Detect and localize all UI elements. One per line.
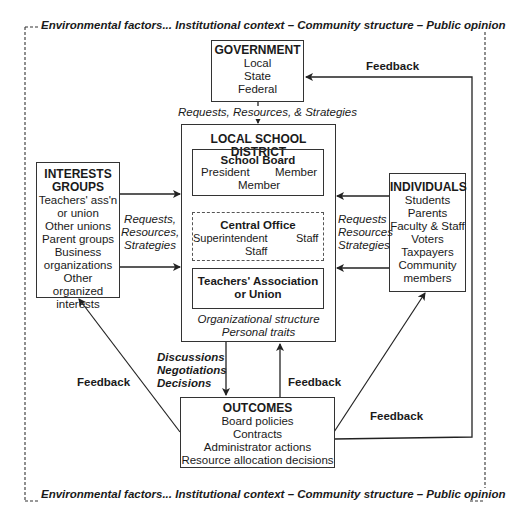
school-board-member: Member [238, 179, 280, 192]
teachers-association-line2: or Union [193, 288, 323, 301]
environment-label-bottom: Environmental factors... Institutional c… [38, 488, 508, 500]
feedback-label-left: Feedback [77, 376, 130, 389]
individuals-link-label: Requests Resources Strategies [338, 213, 388, 252]
individuals-box: INDIVIDUALS Students Parents Faculty & S… [389, 173, 466, 292]
outcomes-box: OUTCOMES Board policies Contracts Admini… [180, 397, 335, 468]
outcomes-item: Board policies [181, 415, 334, 428]
interest-link-label-line: Resources, [121, 226, 179, 239]
district-footer: Organizational structure Personal traits [181, 313, 336, 339]
individuals-link-label-line: Requests [338, 213, 388, 226]
decision-label-line: Negotiations [157, 364, 227, 377]
feedback-label-bottom-right: Feedback [370, 410, 423, 423]
feedback-label-center: Feedback [288, 376, 341, 389]
outcomes-item: Contracts [181, 428, 334, 441]
government-item: State [212, 70, 303, 83]
interest-groups-item: organizations [37, 259, 119, 272]
individuals-item: Taxpayers [390, 246, 465, 259]
feedback-label-top-right: Feedback [366, 60, 419, 73]
individuals-link-label-line: Resources [338, 226, 388, 239]
interest-link-label-line: Strategies [121, 239, 179, 252]
central-office-staff: Staff [296, 232, 318, 245]
outcomes-item: Administrator actions [181, 441, 334, 454]
outcomes-item: Resource allocation decisions [181, 454, 334, 467]
central-office-superintendent: Superintendent [193, 232, 268, 245]
central-office-title: Central Office [193, 219, 323, 232]
government-item: Federal [212, 83, 303, 96]
interest-groups-item: Parent groups [37, 233, 119, 246]
individuals-item: Faculty & Staff [390, 220, 465, 233]
environment-label-top: Environmental factors... Institutional c… [38, 19, 508, 31]
interest-link-label-line: Requests, [121, 213, 179, 226]
decision-label: Discussions Negotiations Decisions [157, 351, 227, 390]
teachers-association-box: Teachers' Association or Union [192, 268, 324, 309]
interest-groups-item: or union [37, 207, 119, 220]
interest-groups-item: Other unions [37, 220, 119, 233]
decision-label-line: Decisions [157, 377, 227, 390]
interest-groups-item: Other organized [37, 272, 119, 298]
interest-groups-item: interests [37, 298, 119, 311]
school-board-president: President [201, 166, 250, 179]
teachers-association-line1: Teachers' Association [193, 275, 323, 288]
individuals-item: members [390, 272, 465, 285]
decision-label-line: Discussions [157, 351, 227, 364]
outcomes-title: OUTCOMES [181, 402, 334, 415]
district-footer-item: Personal traits [181, 326, 336, 339]
interest-groups-title: GROUPS [37, 181, 119, 194]
individuals-link-label-line: Strategies [338, 239, 388, 252]
school-board-member: Member [275, 166, 317, 179]
individuals-item: Students [390, 194, 465, 207]
interest-groups-box: INTERESTS GROUPS Teachers' ass'n or unio… [36, 162, 120, 298]
government-box: GOVERNMENT Local State Federal [211, 40, 304, 102]
government-item: Local [212, 57, 303, 70]
interest-groups-item: Business [37, 246, 119, 259]
interest-link-label: Requests, Resources, Strategies [121, 213, 179, 252]
individuals-item: Voters [390, 233, 465, 246]
government-link-label: Requests, Resources, & Strategies [176, 106, 359, 119]
government-title: GOVERNMENT [212, 44, 303, 57]
individuals-item: Community [390, 259, 465, 272]
individuals-item: Parents [390, 207, 465, 220]
interest-groups-item: Teachers' ass'n [37, 194, 119, 207]
central-office-staff: Staff [245, 245, 267, 258]
individuals-title: INDIVIDUALS [390, 181, 465, 194]
district-footer-item: Organizational structure [181, 313, 336, 326]
